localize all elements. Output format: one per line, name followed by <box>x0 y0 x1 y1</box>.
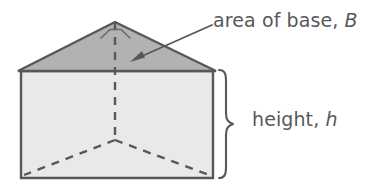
label-height-text: height, <box>252 108 325 130</box>
label-area-of-base: area of base, B <box>213 9 358 31</box>
height-brace-icon <box>219 70 233 178</box>
label-area-of-base-variable: B <box>345 9 358 31</box>
label-height-variable: h <box>325 108 337 130</box>
prism-front-face <box>21 71 213 178</box>
label-height: height, h <box>252 108 338 130</box>
label-area-of-base-text: area of base, <box>213 9 345 31</box>
